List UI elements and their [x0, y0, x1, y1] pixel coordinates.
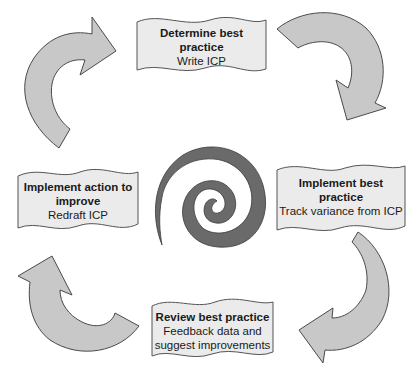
step-title: Implement action to [18, 180, 138, 194]
step-title: improve [18, 194, 138, 208]
arrow-top-right-icon [277, 13, 386, 120]
step-subtitle: Feedback data and [150, 324, 275, 338]
step-title: Implement best [277, 176, 405, 190]
step-subtitle: Track variance from ICP [277, 204, 405, 218]
arrow-top-left-icon [25, 17, 116, 148]
step-title: practice [137, 40, 266, 54]
step-box-review-best-practice: Review best practice Feedback data and s… [150, 310, 275, 352]
step-box-implement-best-practice: Implement best practice Track variance f… [277, 176, 405, 218]
step-subtitle: Write ICP [137, 54, 266, 68]
step-title: Determine best [137, 26, 266, 40]
step-title: Review best practice [150, 310, 275, 324]
arrow-bottom-left-icon [18, 256, 139, 351]
step-subtitle: Redraft ICP [18, 208, 138, 222]
step-box-implement-action-to-improve: Implement action to improve Redraft ICP [18, 180, 138, 222]
step-title: practice [277, 190, 405, 204]
step-subtitle: suggest improvements [150, 338, 275, 352]
arrow-bottom-right-icon [299, 232, 389, 363]
spiral-icon [155, 147, 265, 247]
step-box-determine-best-practice: Determine best practice Write ICP [137, 26, 266, 68]
